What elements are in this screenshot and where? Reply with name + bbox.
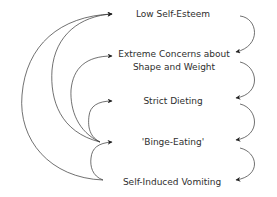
arrow-binge-to-vomiting (236, 148, 255, 180)
node-strict-dieting: Strict Dieting (143, 95, 202, 107)
arrows-layer (0, 0, 277, 197)
node-self-induced-vomiting: Self-Induced Vomiting (123, 176, 221, 188)
arrow-low-esteem-to-concerns (236, 16, 255, 52)
arrow-binge-to-dieting (89, 101, 112, 142)
eating-disorder-cycle-diagram: Low Self-Esteem Extreme Concerns about S… (0, 0, 277, 197)
arrow-binge-to-low-esteem (52, 14, 112, 142)
node-extreme-concerns-line1: Extreme Concerns about (118, 48, 230, 60)
node-low-self-esteem: Low Self-Esteem (136, 8, 210, 20)
arrow-binge-to-concerns (71, 56, 112, 142)
arrow-concerns-to-dieting (236, 62, 255, 98)
arrow-vomiting-to-low-esteem (22, 14, 112, 180)
node-binge-eating: 'Binge-Eating' (142, 136, 204, 148)
arrow-dieting-to-binge (236, 104, 255, 140)
node-extreme-concerns-line2: Shape and Weight (133, 61, 215, 73)
arrow-vomiting-to-binge (91, 142, 112, 180)
